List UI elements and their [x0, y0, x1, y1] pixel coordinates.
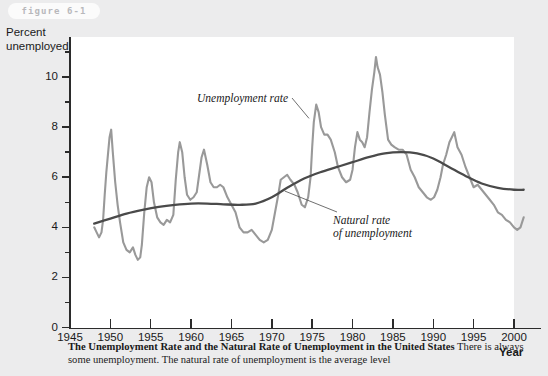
- chart-series-layer: [0, 26, 548, 336]
- natural-rate-annotation: Natural rate of unemployment: [333, 214, 412, 239]
- natural-rate-leader-line: [285, 191, 337, 212]
- figure-number-tag: figure 6-1: [8, 3, 100, 19]
- figure-page: figure 6-1 Percent unemployed 0246810 19…: [0, 0, 548, 376]
- unemployment-chart: Percent unemployed 0246810 1945195019551…: [0, 26, 548, 336]
- unemployment-rate-line: [94, 57, 523, 260]
- figure-caption: The Unemployment Rate and the Natural Ra…: [68, 341, 542, 366]
- figure-number-label: figure 6-1: [21, 7, 86, 16]
- unemployment-rate-annotation: Unemployment rate: [197, 92, 288, 105]
- unemployment-rate-leader-line: [292, 98, 309, 118]
- caption-title: The Unemployment Rate and the Natural Ra…: [68, 341, 455, 352]
